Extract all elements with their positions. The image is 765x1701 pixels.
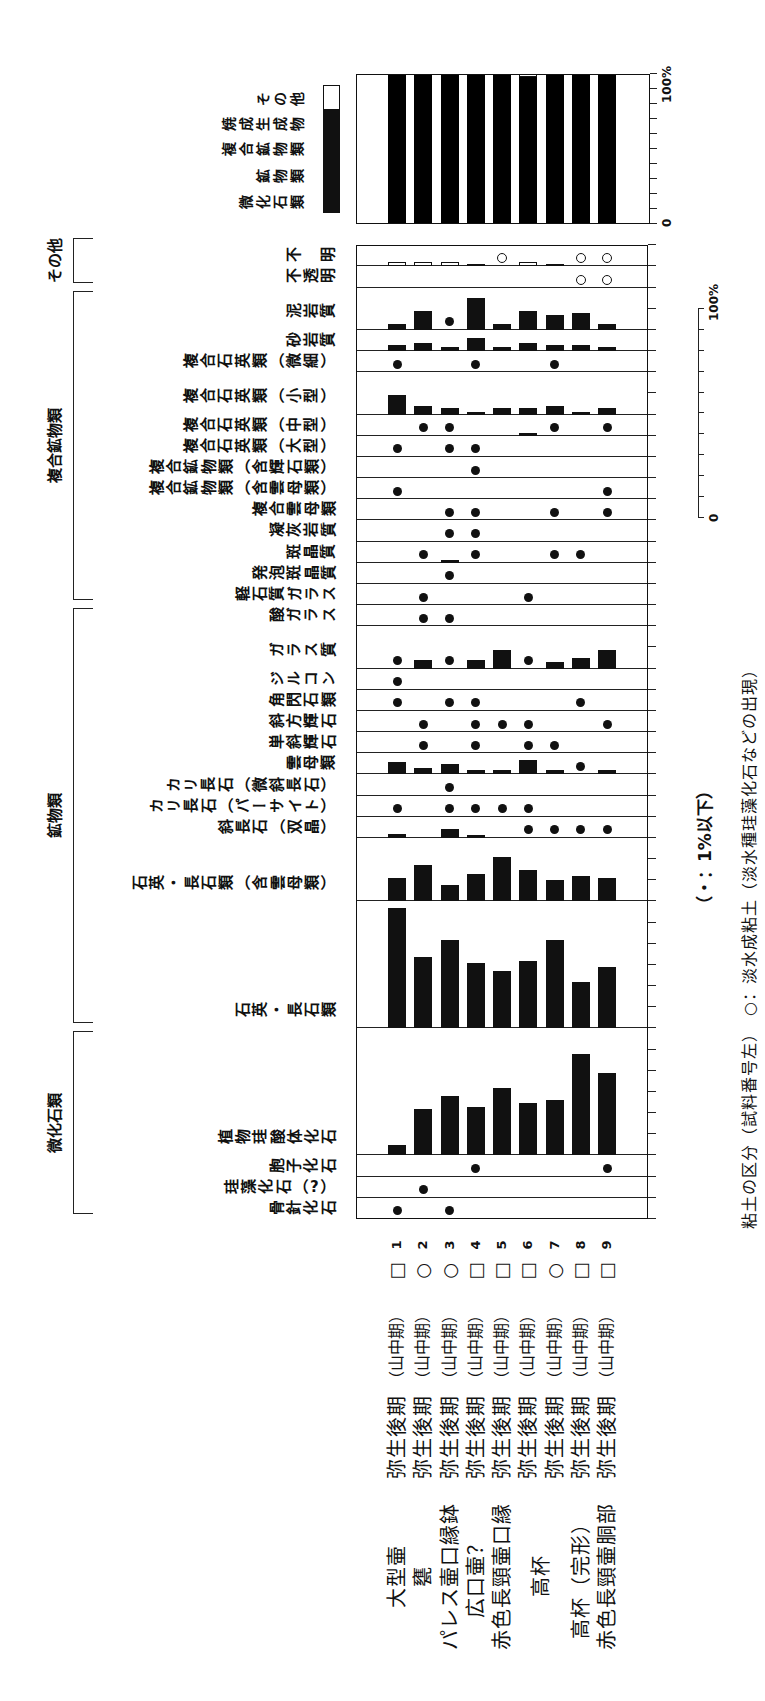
axis-tick: [648, 265, 656, 266]
axis-tick: [648, 287, 656, 288]
axis-tick: [648, 816, 656, 817]
axis-tick: [648, 646, 656, 647]
axis-tick: [648, 371, 656, 372]
axis-tick: [648, 879, 656, 880]
column-header-label: カリ長石（微斜長石）: [166, 776, 338, 794]
legend-label: 微化石類: [239, 195, 307, 211]
column-header-label: 石英・長石類: [235, 1001, 338, 1019]
scale-bar-tick: [698, 475, 704, 476]
clay-square-icon: □: [492, 1261, 512, 1281]
group-bracket: [73, 291, 93, 601]
sample-number: 1: [388, 1238, 406, 1252]
stacked-axis-tick: [650, 88, 657, 89]
column-header-label: 植物珪酸体化石: [218, 1129, 338, 1147]
stacked-chart-frame: [356, 74, 650, 224]
stacked-axis-tick: [650, 133, 657, 134]
vessel-name: 赤色長頸壷胴部: [595, 1491, 619, 1661]
sample-number: 4: [467, 1238, 485, 1252]
phase-label: （山中期）: [464, 1297, 488, 1387]
axis-tick: [648, 943, 656, 944]
scale-bar-tick: [698, 371, 704, 372]
column-header-label: 軽石質ガラス: [235, 586, 338, 604]
stacked-axis-tick: [650, 178, 657, 179]
axis-tick: [648, 1006, 656, 1007]
column-header-label: 酸ガラス: [269, 607, 338, 625]
column-header-label: 発泡斑晶質: [252, 564, 338, 582]
axis-tick: [648, 710, 656, 711]
period-label: 弥生後期: [490, 1387, 514, 1479]
period-label: 弥生後期: [464, 1387, 488, 1479]
vessel-name: 高杯（完形）: [569, 1491, 593, 1661]
axis-tick: [648, 414, 656, 415]
axis-tick: [648, 519, 656, 520]
axis-tick: [648, 392, 656, 393]
sample-number: 3: [441, 1238, 459, 1252]
phase-label: （山中期）: [516, 1297, 540, 1387]
stacked-axis-max-label: 100%: [660, 66, 674, 103]
column-header-label: 胞子化石: [269, 1157, 338, 1175]
sample-number: 8: [572, 1238, 590, 1252]
main-chart-frame: [356, 245, 648, 1219]
axis-tick: [648, 773, 656, 774]
axis-tick: [648, 689, 656, 690]
sample-number: 6: [519, 1238, 537, 1252]
stacked-axis-tick: [650, 163, 657, 164]
period-label: 弥生後期: [385, 1387, 409, 1479]
axis-tick: [648, 795, 656, 796]
stacked-axis-tick: [650, 73, 657, 74]
vessel-name: 広口壷？: [464, 1491, 488, 1661]
stacked-axis-tick: [650, 208, 657, 209]
axis-tick: [648, 350, 656, 351]
axis-tick: [648, 541, 656, 542]
phase-label: （山中期）: [385, 1297, 409, 1387]
period-label: 弥生後期: [569, 1387, 593, 1479]
axis-tick: [648, 456, 656, 457]
column-header-label: 複合雲母類: [252, 501, 338, 519]
scale-bar-tick: [698, 496, 704, 497]
sample-number: 7: [546, 1238, 564, 1252]
freshwater-clay-circle-icon: ○: [545, 1261, 565, 1281]
axis-tick: [648, 1176, 656, 1177]
scale-bar-tick: [698, 454, 704, 455]
column-header-label: 砂岩質: [286, 331, 338, 349]
column-header-label: ガラス質: [269, 642, 338, 660]
phase-label: （山中期）: [411, 1297, 435, 1387]
axis-tick: [648, 1218, 656, 1219]
vessel-name: 甕: [411, 1491, 435, 1661]
scale-bar-tick: [698, 392, 704, 393]
column-header-label: 斜長石（双晶）: [218, 818, 338, 836]
stacked-axis-tick: [650, 223, 657, 224]
column-header-label: 骨針化石: [269, 1199, 338, 1217]
vessel-name: 大型壷: [385, 1491, 409, 1661]
period-label: 弥生後期: [543, 1387, 567, 1479]
stacked-axis-tick: [650, 103, 657, 104]
vessel-name: [543, 1491, 567, 1661]
axis-tick: [648, 985, 656, 986]
axis-tick: [648, 731, 656, 732]
axis-tick: [648, 308, 656, 309]
column-header-label: ジルコン: [269, 670, 338, 688]
axis-tick: [648, 1112, 656, 1113]
column-header-label: 斜方輝石: [269, 713, 338, 731]
sample-number: 9: [598, 1238, 616, 1252]
axis-tick: [648, 964, 656, 965]
clay-square-icon: □: [597, 1261, 617, 1281]
sample-number: 5: [493, 1238, 511, 1252]
scale-bar-tick: [698, 329, 704, 330]
column-header-label: 複合石英類（微細）: [183, 353, 338, 371]
scale-bar-tick: [698, 433, 704, 434]
axis-tick: [648, 922, 656, 923]
stacked-axis-tick: [650, 193, 657, 194]
scale-bar-max-label: 100%: [707, 284, 721, 321]
legend-label: その他: [256, 92, 307, 108]
legend-swatch-frame: [323, 85, 340, 213]
column-header-label: 複合石英類（大型）: [183, 437, 338, 455]
clay-square-icon: □: [571, 1261, 591, 1281]
scale-bar-line: [698, 309, 699, 518]
scale-bar-tick: [698, 308, 704, 309]
scale-bar-tick: [698, 350, 704, 351]
column-header-label: 不 明: [286, 247, 338, 265]
axis-tick: [648, 668, 656, 669]
vessel-name: パレス壷口縁鉢: [438, 1491, 462, 1661]
axis-tick: [648, 625, 656, 626]
